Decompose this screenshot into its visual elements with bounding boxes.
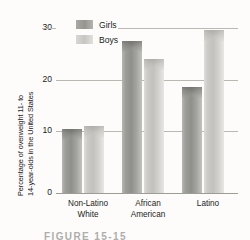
bar-boys-non-latino-white[interactable] xyxy=(84,126,104,193)
bar-body xyxy=(182,87,202,193)
bar-body xyxy=(144,59,164,193)
y-axis-title-line-1: Percentage of overweight 11- to xyxy=(16,95,25,196)
legend-item-boys[interactable]: Boys xyxy=(76,32,118,47)
figure-caption: FIGURE 15-15 xyxy=(44,231,127,240)
legend-label-girls: Girls xyxy=(99,20,117,30)
x-label-latino: Latino xyxy=(172,199,244,210)
bar-group-latino xyxy=(182,20,234,195)
figure-container: Percentage of overweight 11- to 14-year-… xyxy=(0,0,250,240)
y-tick-label-10: 10 xyxy=(36,125,52,135)
y-axis-tick-labels: 30 20 10 0 xyxy=(34,20,52,200)
y-axis-title: Percentage of overweight 11- to 14-year-… xyxy=(0,0,36,200)
bar-cap xyxy=(84,126,104,137)
x-label-line-1: Latino xyxy=(172,199,244,210)
bar-cap xyxy=(62,129,82,140)
bar-cap xyxy=(182,87,202,98)
bar-cap xyxy=(122,41,142,52)
bar-body xyxy=(204,30,224,193)
y-tick-label-20: 20 xyxy=(36,74,52,84)
bar-body xyxy=(122,41,142,193)
legend: Girls Boys xyxy=(76,17,118,47)
legend-swatch-girls-icon xyxy=(76,20,93,29)
y-axis-tick-stub-30 xyxy=(42,28,56,29)
bar-girls-non-latino-white[interactable] xyxy=(62,129,82,193)
bar-girls-african-american[interactable] xyxy=(122,41,142,193)
bar-boys-african-american[interactable] xyxy=(144,59,164,193)
x-axis-category-labels: Non-Latino White African American Latino xyxy=(56,197,238,225)
x-label-line-2: American xyxy=(112,210,184,221)
y-tick-label-0: 0 xyxy=(36,187,52,197)
bar-group-african-american xyxy=(122,20,174,195)
bar-cap xyxy=(204,30,224,41)
legend-label-boys: Boys xyxy=(99,35,118,45)
bar-cap xyxy=(144,59,164,70)
y-tick-label-30: 30 xyxy=(36,22,52,32)
legend-swatch-boys-icon xyxy=(76,35,93,44)
bar-girls-latino[interactable] xyxy=(182,87,202,193)
legend-item-girls[interactable]: Girls xyxy=(76,17,118,32)
bar-boys-latino[interactable] xyxy=(204,30,224,193)
